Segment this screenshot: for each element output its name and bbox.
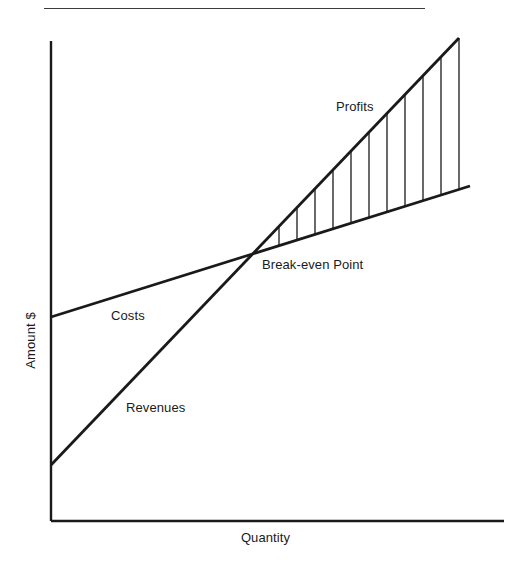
chart-plot-area: [0, 0, 531, 564]
profits-label: Profits: [336, 99, 374, 114]
x-axis-title: Quantity: [0, 530, 531, 545]
costs-line: [51, 186, 470, 317]
costs-label: Costs: [111, 308, 145, 323]
revenues-label: Revenues: [126, 400, 185, 415]
revenues-line: [51, 38, 459, 465]
chart-series-lines: [51, 38, 470, 465]
breakeven-chart-figure: Profits Break-even Point Costs Revenues …: [0, 0, 531, 564]
break-even-point-label: Break-even Point: [262, 257, 363, 272]
y-axis-title: Amount $: [23, 295, 38, 387]
chart-axes: [51, 41, 504, 521]
profit-region-hatching: [279, 38, 459, 246]
